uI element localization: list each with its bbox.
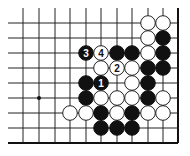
white-stone (110, 91, 125, 106)
move-number-label: 3 (83, 48, 89, 59)
go-board-diagram: 3421 (0, 0, 190, 156)
move-number-label: 2 (114, 63, 120, 74)
white-stone (141, 46, 156, 61)
black-stone (110, 121, 125, 136)
black-stone (141, 91, 156, 106)
black-stone (110, 46, 125, 61)
white-stone (125, 91, 140, 106)
white-stone (141, 31, 156, 46)
white-stone (110, 106, 125, 121)
star-points (37, 96, 41, 100)
black-stone (79, 91, 94, 106)
black-stone (156, 46, 171, 61)
white-stone (94, 91, 109, 106)
star-point-icon (37, 96, 41, 100)
black-stone: 1 (94, 76, 109, 91)
black-stone (79, 76, 94, 91)
white-stone (141, 16, 156, 31)
white-stone (156, 106, 171, 121)
black-stone (94, 121, 109, 136)
move-number-label: 4 (98, 48, 104, 59)
white-stone: 2 (110, 61, 125, 76)
black-stone (156, 61, 171, 76)
black-stone (125, 121, 140, 136)
black-stone (94, 106, 109, 121)
black-stone: 3 (79, 46, 94, 61)
white-stone (94, 61, 109, 76)
black-stone (125, 106, 140, 121)
white-stone (125, 76, 140, 91)
white-stone (156, 16, 171, 31)
white-stone (79, 106, 94, 121)
black-stone (141, 61, 156, 76)
black-stone (141, 76, 156, 91)
white-stone (63, 106, 78, 121)
white-stone: 4 (94, 46, 109, 61)
black-stone (156, 31, 171, 46)
white-stone (156, 91, 171, 106)
white-stone (125, 61, 140, 76)
move-number-label: 1 (98, 78, 104, 89)
white-stone (141, 106, 156, 121)
black-stone (125, 46, 140, 61)
